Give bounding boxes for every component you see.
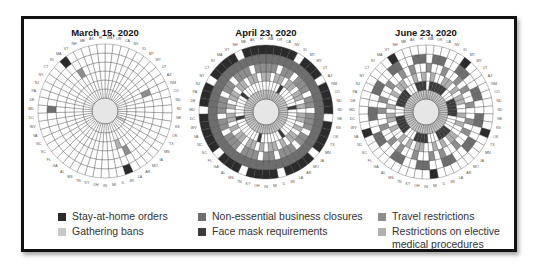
svg-text:PA: PA [353,90,358,94]
svg-text:WI: WI [130,179,134,183]
radial-chart-march: WAORCANVIDMTWYUTAZNMCONDSDNEKSOKTXMNIAMO… [25,31,185,191]
legend-item-face-masks: Face mask requirements [198,225,328,238]
svg-text:UT: UT [323,66,329,70]
svg-text:SD: SD [497,108,502,112]
svg-text:OK: OK [493,135,499,139]
svg-text:AK: AK [250,38,255,42]
svg-text:NE: NE [337,117,343,121]
svg-text:FL: FL [47,158,51,162]
svg-text:OK: OK [333,135,339,139]
svg-text:VA: VA [33,134,38,138]
svg-text:MD: MD [189,108,195,112]
svg-text:WI: WI [291,180,295,184]
svg-text:NV: NV [454,43,460,47]
svg-text:CO: CO [494,90,500,94]
svg-text:NE: NE [176,116,182,120]
svg-text:ID: ID [142,47,146,51]
svg-text:MT: MT [310,53,316,57]
svg-text:CA: CA [125,39,131,43]
svg-text:ID: ID [303,48,307,52]
svg-text:KS: KS [496,126,501,130]
svg-text:TX: TX [169,142,174,146]
svg-text:NC: NC [357,143,363,147]
svg-text:WI: WI [451,180,455,184]
svg-text:NH: NH [392,43,398,47]
svg-text:MI: MI [273,184,277,188]
svg-text:MD: MD [28,107,34,111]
svg-text:NY: NY [199,74,205,78]
svg-text:NH: NH [71,42,77,46]
svg-text:AK: AK [89,37,94,41]
svg-text:MN: MN [325,151,331,155]
svg-text:SC: SC [41,150,46,154]
svg-text:FL: FL [208,159,212,163]
svg-text:NJ: NJ [356,82,361,86]
svg-text:TN: TN [397,180,402,184]
svg-text:MS: MS [67,175,73,179]
svg-text:IN: IN [103,184,107,188]
svg-text:NC: NC [36,142,42,146]
svg-text:RI: RI [371,59,375,63]
svg-text:CA: CA [286,40,292,44]
legend: Stay-at-home orders Gathering bans Non-e… [58,210,508,254]
svg-text:UT: UT [162,65,168,69]
svg-text:RI: RI [211,59,215,63]
svg-text:AL: AL [60,170,64,174]
svg-text:WV: WV [191,126,197,130]
legend-swatch-non-essential-closures [198,213,206,221]
svg-text:OH: OH [254,184,260,188]
legend-item-gathering-bans: Gathering bans [58,225,144,238]
legend-label-travel: Travel restrictions [392,210,474,223]
svg-text:MD: MD [349,108,355,112]
svg-text:RI: RI [50,58,54,62]
svg-text:IL: IL [283,182,286,186]
svg-text:OK: OK [172,134,178,138]
svg-text:MA: MA [377,53,383,57]
svg-text:OH: OH [93,183,99,187]
svg-text:VT: VT [225,48,230,52]
svg-text:OH: OH [414,184,420,188]
svg-text:SC: SC [362,151,367,155]
radial-chart-june: WAORCANVIDMTWYUTAZNMCONDSDNEKSOKTXMNIAMO… [346,32,506,192]
svg-text:MI: MI [112,183,116,187]
legend-item-travel: Travel restrictions [378,210,474,223]
svg-text:SC: SC [202,151,207,155]
svg-text:PA: PA [193,90,198,94]
svg-text:LA: LA [299,176,304,180]
svg-text:CT: CT [205,66,211,70]
svg-text:OR: OR [277,38,283,42]
svg-text:PA: PA [32,89,37,93]
svg-text:GA: GA [374,165,380,169]
svg-text:LA: LA [138,175,143,179]
svg-text:MS: MS [388,176,394,180]
svg-text:OR: OR [116,37,122,41]
svg-text:AL: AL [381,171,385,175]
svg-text:MT: MT [149,52,155,56]
svg-text:IA: IA [480,159,484,163]
svg-text:NV: NV [133,42,139,46]
svg-text:VA: VA [194,135,199,139]
legend-swatch-elective-procedures [378,228,386,236]
svg-text:NY: NY [359,74,365,78]
svg-text:AR: AR [145,170,150,174]
svg-text:DE: DE [190,99,196,103]
svg-text:DC: DC [29,116,35,120]
svg-text:KY: KY [246,182,251,186]
svg-text:KY: KY [406,182,411,186]
svg-text:CT: CT [44,65,50,69]
svg-text:WA: WA [428,37,434,41]
svg-text:VT: VT [385,48,390,52]
svg-text:ID: ID [463,48,467,52]
svg-text:DE: DE [29,98,35,102]
svg-text:WY: WY [476,59,482,63]
svg-text:ME: ME [401,40,407,44]
svg-text:TX: TX [490,143,495,147]
svg-text:MO: MO [313,165,319,169]
svg-text:KY: KY [85,181,90,185]
legend-item-non-essential-closures: Non-essential business closures [198,210,363,223]
svg-text:VA: VA [354,135,359,139]
svg-text:IL: IL [122,181,125,185]
svg-text:NJ: NJ [196,82,201,86]
svg-text:DE: DE [350,99,356,103]
svg-text:AZ: AZ [488,74,493,78]
